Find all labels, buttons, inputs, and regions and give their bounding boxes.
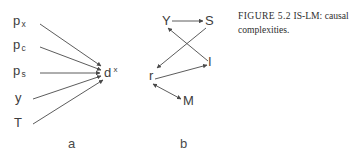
- node-label-y: y: [15, 91, 22, 104]
- edge-r-to-M: [153, 84, 181, 99]
- panel-a-edge-group: [33, 24, 103, 124]
- node-label-M: M: [183, 94, 194, 107]
- edge-px-to-dx: [40, 24, 101, 66]
- node-label-I: I: [208, 55, 212, 68]
- node-label-T: T: [14, 116, 22, 129]
- node-label-dx: dx: [104, 66, 116, 79]
- edge-S-to-r: [157, 28, 206, 68]
- edge-r-to-I: [155, 65, 207, 79]
- node-label-pc: pc: [13, 38, 25, 51]
- edge-pc-to-dx: [40, 47, 101, 70]
- panel-b-label: b: [180, 136, 187, 151]
- node-label-px: px: [13, 14, 25, 27]
- figure-number: FIGURE 5.2: [238, 10, 291, 21]
- edge-T-to-dx: [33, 80, 103, 124]
- node-label-S: S: [205, 14, 214, 27]
- node-label-r: r: [149, 69, 154, 82]
- node-label-Y: Y: [162, 14, 171, 27]
- node-label-ps: ps: [13, 64, 25, 77]
- panel-a-label: a: [68, 136, 75, 151]
- panel-b-edge-group: [153, 21, 208, 99]
- figure-caption: FIGURE 5.2 IS-LM: causal complexities.: [238, 9, 358, 37]
- edge-I-to-Y: [168, 28, 208, 61]
- figure-container: px pc ps y T dx Y S r I M a b FIGURE 5.2…: [0, 0, 361, 167]
